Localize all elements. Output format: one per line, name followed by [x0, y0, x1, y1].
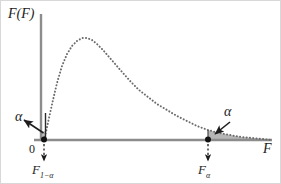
alpha-right-annotation: α	[224, 105, 231, 119]
origin-label: 0	[29, 143, 35, 155]
upper-critical-value-label: Fα	[198, 163, 210, 180]
y-axis-label: F(F)	[8, 7, 34, 21]
lower-critical-value-subscript: 1−α	[40, 171, 54, 180]
alpha-right-leader-arrow	[215, 122, 230, 134]
plot-canvas	[0, 0, 281, 184]
f-distribution-figure: F(F) F 0 α α F1−α Fα	[0, 0, 281, 184]
alpha-left-annotation: α	[15, 110, 22, 124]
x-axis-label: F	[263, 142, 272, 156]
lower-critical-value-base: F	[32, 162, 40, 177]
density-curve	[44, 38, 272, 140]
lower-critical-point-marker	[41, 137, 47, 143]
upper-critical-point-marker	[205, 137, 211, 143]
lower-critical-value-label: F1−α	[32, 163, 54, 180]
upper-critical-value-base: F	[198, 162, 206, 177]
upper-critical-value-subscript: α	[206, 171, 210, 180]
